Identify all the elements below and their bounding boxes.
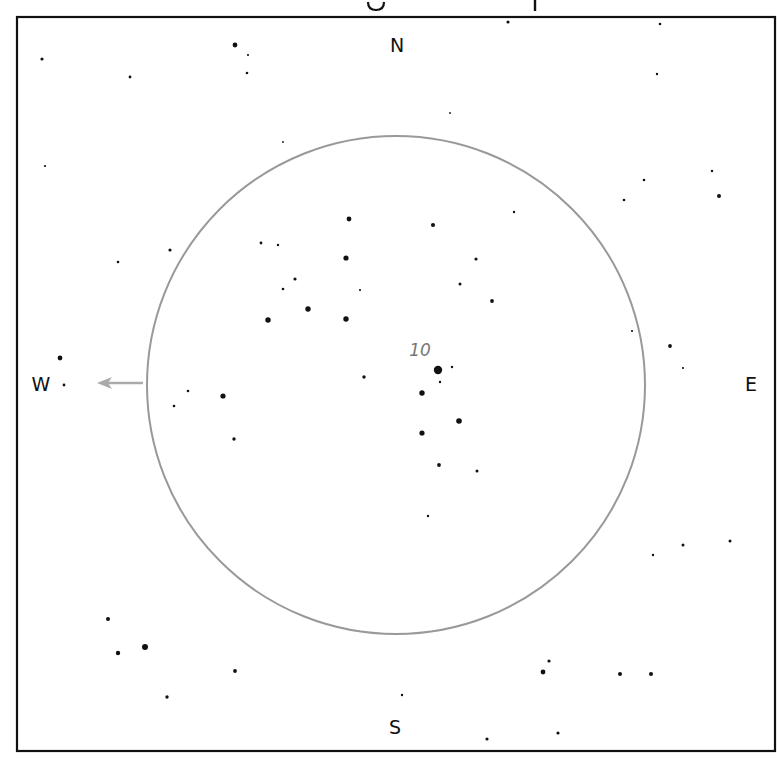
finder-chart: 10 N S W E <box>0 0 778 760</box>
star <box>717 194 721 198</box>
star-field <box>40 20 731 740</box>
star <box>220 393 225 398</box>
star <box>247 54 249 56</box>
star <box>474 257 477 260</box>
star <box>449 112 451 114</box>
star <box>485 737 488 740</box>
star <box>729 540 732 543</box>
field-of-view-circle <box>147 136 645 634</box>
star <box>459 283 462 286</box>
star <box>40 57 43 60</box>
star <box>277 244 279 246</box>
star <box>434 366 442 374</box>
star <box>431 223 435 227</box>
star <box>233 669 237 673</box>
star <box>490 299 494 303</box>
star <box>260 242 263 245</box>
star <box>476 470 479 473</box>
star <box>437 463 441 467</box>
star <box>246 72 249 75</box>
star <box>506 20 509 23</box>
star <box>173 405 176 408</box>
star <box>44 165 46 167</box>
star <box>513 211 515 213</box>
star <box>359 289 361 291</box>
star <box>232 437 235 440</box>
star <box>652 554 654 556</box>
direction-west: W <box>32 373 51 395</box>
direction-north: N <box>390 34 404 56</box>
star <box>129 76 132 79</box>
star <box>656 73 658 75</box>
star <box>419 390 424 395</box>
object-label: 10 <box>409 340 431 360</box>
star <box>282 141 284 143</box>
star <box>233 43 238 48</box>
star <box>142 644 148 650</box>
star <box>63 384 66 387</box>
star <box>439 381 441 383</box>
star <box>58 356 63 361</box>
star <box>451 366 453 368</box>
star <box>343 316 348 321</box>
star <box>117 261 120 264</box>
star <box>165 695 168 698</box>
star <box>623 199 626 202</box>
star <box>293 277 296 280</box>
star <box>106 617 110 621</box>
star <box>362 375 365 378</box>
star <box>187 390 190 393</box>
star <box>643 179 646 182</box>
star <box>401 694 403 696</box>
star <box>347 217 352 222</box>
star <box>649 672 653 676</box>
direction-east: E <box>745 373 757 395</box>
star <box>668 344 672 348</box>
star <box>419 430 424 435</box>
star <box>168 248 171 251</box>
star <box>682 367 684 369</box>
star <box>541 670 546 675</box>
star <box>631 330 633 332</box>
star <box>618 672 622 676</box>
star <box>265 317 270 322</box>
star <box>116 651 120 655</box>
star <box>282 288 285 291</box>
star <box>305 306 310 311</box>
star <box>682 544 685 547</box>
star <box>456 418 462 424</box>
title-descenders <box>368 0 535 11</box>
star <box>343 255 348 260</box>
star <box>659 23 662 26</box>
direction-south: S <box>389 716 401 738</box>
motion-arrow <box>97 377 143 389</box>
star <box>547 659 550 662</box>
star <box>556 731 559 734</box>
star <box>427 515 429 517</box>
star <box>711 170 713 172</box>
